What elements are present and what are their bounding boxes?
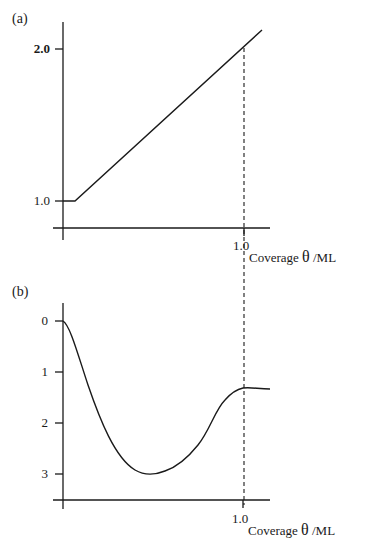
theta-symbol: θ: [301, 521, 309, 538]
panel-b-axes: [53, 303, 270, 509]
xlabel-text: Coverage: [249, 250, 302, 265]
xlabel-text: Coverage: [248, 523, 301, 538]
panel-a-series: [63, 30, 262, 201]
b-xtick-1: 1.0: [232, 512, 248, 525]
a-ytick-2: 2.0: [20, 42, 50, 55]
b-xlabel: Coverage θ /ML: [248, 522, 335, 538]
panel-a-axes: [53, 22, 270, 240]
figure-canvas: [0, 0, 366, 547]
xlabel-unit: /ML: [310, 250, 336, 265]
b-ytick-3: 3: [18, 467, 48, 480]
theta-symbol: θ: [302, 248, 310, 265]
a-xlabel: Coverage θ /ML: [249, 249, 336, 265]
a-ytick-1: 1.0: [20, 194, 50, 207]
a-xtick-1: 1.0: [233, 239, 249, 252]
b-ytick-0: 0: [18, 314, 48, 327]
b-ytick-1: 1: [18, 365, 48, 378]
panel-a-label: (a): [12, 12, 28, 26]
b-ytick-2: 2: [18, 416, 48, 429]
xlabel-unit: /ML: [309, 523, 335, 538]
panel-b-series: [63, 321, 270, 474]
panel-b-label: (b): [12, 285, 28, 299]
